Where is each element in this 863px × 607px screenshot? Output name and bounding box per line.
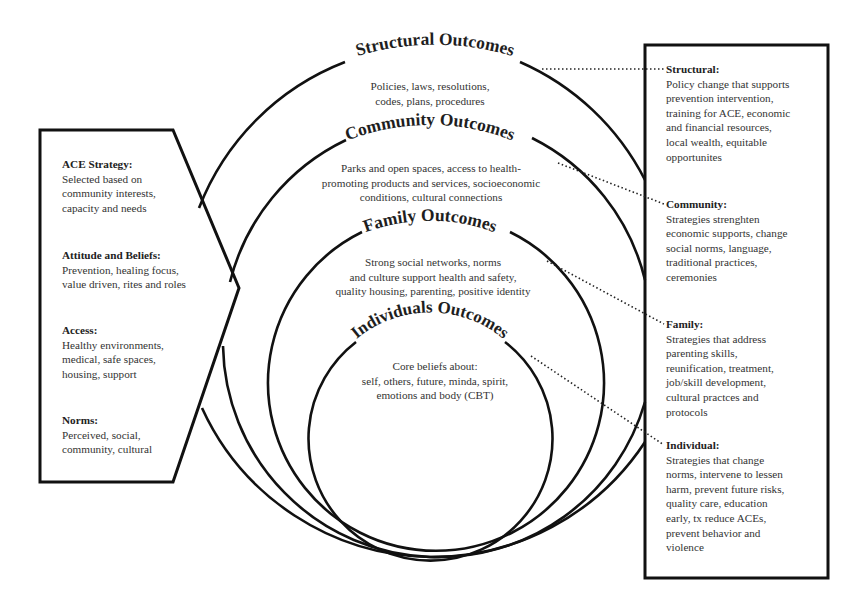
ring-title-structural: Structural Outcomes [353, 29, 517, 60]
left-section-body: Selected based on community interests, c… [62, 172, 232, 216]
left-section-body: Healthy environments, medical, safe spac… [62, 338, 232, 382]
left-section-access: Access: Healthy environments, medical, s… [62, 323, 232, 381]
left-section-norms: Norms: Perceived, social, community, cul… [62, 413, 232, 457]
right-section-individual: Individual: Strategies that change norms… [666, 438, 826, 555]
ring-body-family: Strong social networks, norms and cultur… [318, 255, 548, 299]
ring-title-family: Family Outcomes [360, 205, 500, 236]
ring-body-community: Parks and open spaces, access to health-… [300, 161, 562, 205]
right-section-heading: Family: [666, 317, 826, 332]
left-section-body: Perceived, social, community, cultural [62, 428, 232, 457]
left-section-body: Prevention, healing focus, value driven,… [62, 263, 237, 292]
ring-title-community: Community Outcomes [342, 109, 518, 144]
ring-title-individual: Individuals Outcomes [347, 297, 513, 342]
ring-body-structural: Policies, laws, resolutions, codes, plan… [330, 79, 530, 108]
right-section-community: Community: Strategies strenghten economi… [666, 197, 826, 285]
ring-body-individual: Core beliefs about: self, others, future… [340, 359, 530, 403]
right-section-body: Strategies strenghten economic supports,… [666, 212, 826, 285]
right-section-heading: Community: [666, 197, 826, 212]
right-section-family: Family: Strategies that address parentin… [666, 317, 826, 419]
connector-community [558, 163, 664, 204]
right-section-heading: Individual: [666, 438, 826, 453]
left-section-ace-strategy: ACE Strategy: Selected based on communit… [62, 157, 232, 215]
left-section-heading: Norms: [62, 413, 232, 428]
left-section-heading: Access: [62, 323, 232, 338]
left-section-heading: ACE Strategy: [62, 157, 232, 172]
left-section-heading: Attitude and Beliefs: [62, 248, 237, 263]
right-section-body: Strategies that address parenting skills… [666, 332, 826, 420]
left-section-attitude-beliefs: Attitude and Beliefs: Prevention, healin… [62, 248, 237, 292]
right-section-body: Strategies that change norms, intervene … [666, 453, 826, 555]
right-section-body: Policy change that supports prevention i… [666, 77, 826, 165]
right-section-heading: Structural: [666, 62, 826, 77]
right-section-structural: Structural: Policy change that supports … [666, 62, 826, 164]
